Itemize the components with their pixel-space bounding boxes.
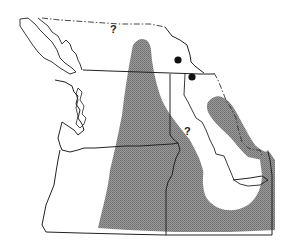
uncertain-north-label: ? <box>110 24 117 35</box>
northern-limit-line <box>42 18 165 27</box>
oregon-south-border <box>46 232 195 235</box>
range-map <box>0 0 283 247</box>
record-dot <box>174 56 181 63</box>
bc-east-border <box>165 27 204 73</box>
bc-mainland-coast <box>38 18 82 70</box>
oregon-coast <box>42 150 60 232</box>
record-dot <box>188 73 195 80</box>
uncertain-idaho-label: ? <box>184 126 191 137</box>
